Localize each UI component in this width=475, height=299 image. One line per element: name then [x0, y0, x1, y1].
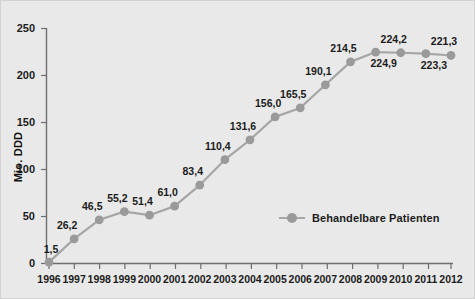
data-label-2006: 165,5: [273, 88, 313, 100]
data-label-2008: 214,5: [324, 42, 364, 54]
series-markers-behandelbare-patienten: [45, 48, 456, 267]
data-point-2007: [321, 80, 330, 89]
data-label-2003: 110,4: [198, 140, 238, 152]
data-point-1999: [120, 207, 129, 216]
y-tick-label-150: 150: [1, 116, 35, 128]
data-label-1997: 26,2: [47, 219, 87, 231]
legend-marker-icon: [279, 213, 305, 223]
series-line-behandelbare-patienten: [49, 52, 451, 262]
data-point-2001: [170, 202, 179, 211]
data-point-2006: [296, 104, 305, 113]
chart-container: Mio. DDD 250 200 150 100 50 0 1996199719…: [0, 0, 475, 299]
data-label-2012: 221,3: [424, 35, 464, 47]
x-tick-label-2012: 2012: [431, 273, 471, 285]
data-label-2009: 224,9: [364, 57, 404, 69]
data-point-2000: [145, 211, 154, 220]
data-label-2004: 131,6: [223, 120, 263, 132]
y-tick-label-50: 50: [1, 210, 35, 222]
data-point-2005: [271, 112, 280, 121]
data-point-1998: [95, 215, 104, 224]
y-axis-ticks: [41, 29, 47, 264]
y-tick-label-250: 250: [1, 22, 35, 34]
data-label-1996: 1,5: [31, 243, 71, 255]
data-label-2007: 190,1: [298, 65, 338, 77]
data-point-2003: [220, 155, 229, 164]
data-point-2008: [346, 57, 355, 66]
data-point-2010: [396, 48, 405, 57]
data-label-2001: 61,0: [148, 186, 188, 198]
data-point-1997: [70, 234, 79, 243]
data-point-2009: [371, 48, 380, 57]
data-label-2010: 224,2: [374, 33, 414, 45]
y-tick-label-200: 200: [1, 69, 35, 81]
data-point-2002: [195, 181, 204, 190]
data-point-2011: [421, 49, 430, 58]
data-label-2011: 223,3: [414, 59, 454, 71]
chart-legend: Behandelbare Patienten: [279, 212, 440, 224]
data-point-1996: [45, 258, 54, 267]
y-tick-label-100: 100: [1, 163, 35, 175]
y-axis-title: Mio. DDD: [12, 117, 24, 197]
data-label-2002: 83,4: [173, 165, 213, 177]
y-tick-label-0: 0: [1, 257, 35, 269]
chart-plot-area: [1, 1, 475, 299]
data-point-2004: [246, 135, 255, 144]
x-axis-ticks: [49, 264, 451, 270]
legend-item-label: Behandelbare Patienten: [312, 212, 440, 224]
